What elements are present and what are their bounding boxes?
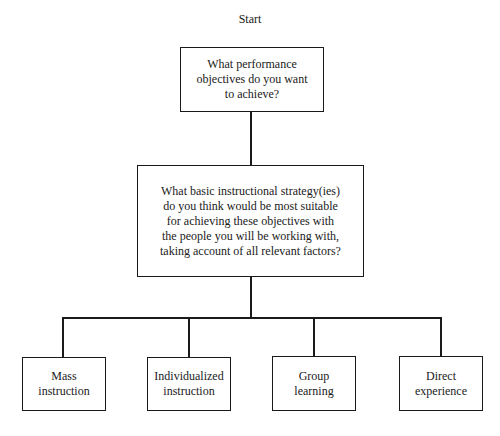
connector-branch-mass: [62, 317, 64, 357]
mass-instruction-text: Mass instruction: [38, 369, 89, 399]
mass-instruction-box: Mass instruction: [22, 357, 106, 411]
connector-branch-direct: [440, 317, 442, 356]
direct-experience-text: Direct experience: [415, 369, 467, 399]
flowchart-canvas: Start What performance objectives do you…: [0, 0, 500, 436]
individualized-instruction-box: Individualized instruction: [147, 357, 231, 411]
branch-horizontal-connector: [62, 317, 441, 319]
connector-root-to-decision: [250, 111, 252, 165]
performance-objectives-text: What performance objectives do you want …: [197, 57, 308, 102]
connector-branch-individualized: [188, 317, 190, 357]
group-learning-box: Group learning: [272, 356, 356, 411]
individualized-instruction-text: Individualized instruction: [154, 369, 223, 399]
connector-decision-to-branch: [250, 276, 252, 318]
connector-branch-group: [313, 317, 315, 356]
performance-objectives-box: What performance objectives do you want …: [180, 47, 324, 112]
instructional-strategy-text: What basic instructional strategy(ies) d…: [160, 184, 341, 259]
instructional-strategy-box: What basic instructional strategy(ies) d…: [137, 165, 364, 277]
start-label: Start: [200, 12, 300, 27]
direct-experience-box: Direct experience: [399, 356, 483, 411]
group-learning-text: Group learning: [294, 369, 333, 399]
